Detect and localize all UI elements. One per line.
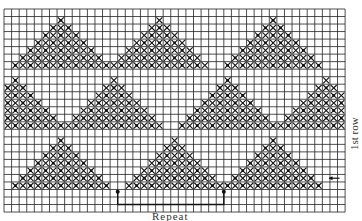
motif-cells	[5, 17, 345, 188]
repeat-label: Repeat	[152, 210, 189, 221]
knitting-chart	[0, 0, 362, 221]
chart-grid	[4, 9, 345, 212]
first-row-label: 1st row	[348, 117, 360, 150]
